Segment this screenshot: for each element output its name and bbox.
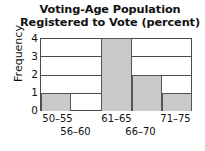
y-tick-label-2: 2 <box>24 69 38 80</box>
y-tick-label-3: 3 <box>24 51 38 62</box>
x-tick-label-61-65: 61–65 <box>93 114 140 124</box>
y-tick-label-4: 4 <box>24 33 38 44</box>
chart-title: Voting-Age Population Registered to Vote… <box>18 3 202 29</box>
bar-71-75 <box>162 93 192 111</box>
bar-cell-50-55 <box>41 38 71 111</box>
bar-cell-71-75 <box>162 38 192 111</box>
chart-title-line-2: Registered to Vote (percent) <box>18 16 202 29</box>
y-axis-title: Frequency <box>12 17 25 91</box>
bar-cell-66-70 <box>132 38 162 111</box>
x-tick-label-50-55: 50–55 <box>34 114 81 124</box>
bar-cell-61-65 <box>101 38 131 111</box>
bars-group <box>40 38 192 111</box>
histogram-figure: Voting-Age Population Registered to Vote… <box>0 0 205 151</box>
x-tick-label-66-70: 66–70 <box>117 127 164 137</box>
x-tick-label-56-60: 56–60 <box>52 127 99 137</box>
chart-title-line-1: Voting-Age Population <box>39 3 180 16</box>
x-tick-label-71-75: 71–75 <box>152 114 199 124</box>
bar-50-55 <box>41 93 71 111</box>
y-tick-label-1: 1 <box>24 87 38 98</box>
bar-61-65 <box>101 38 131 111</box>
bar-cell-56-60 <box>71 38 101 111</box>
bar-66-70 <box>132 75 162 112</box>
